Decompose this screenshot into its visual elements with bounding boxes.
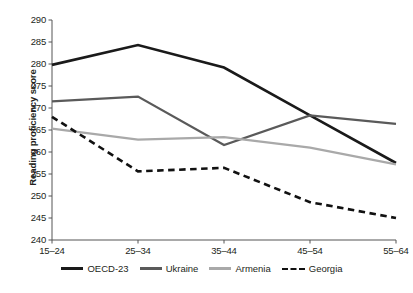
chart-legend: OECD-23UkraineArmeniaGeorgia — [0, 264, 404, 274]
legend-swatch-icon — [209, 267, 231, 270]
legend-swatch-icon — [61, 267, 83, 270]
y-tick-label: 245 — [20, 212, 46, 223]
y-tick-label: 240 — [20, 234, 46, 245]
y-tick-label: 275 — [20, 80, 46, 91]
legend-swatch-icon — [282, 268, 305, 270]
x-tick-label: 25–34 — [114, 245, 162, 256]
y-tick-label: 290 — [20, 14, 46, 25]
legend-item[interactable]: Georgia — [282, 264, 343, 274]
y-tick-label: 260 — [20, 146, 46, 157]
x-tick-label: 15–24 — [28, 245, 76, 256]
legend-item[interactable]: Ukraine — [140, 264, 199, 274]
legend-label: Ukraine — [166, 264, 199, 274]
y-tick-label: 255 — [20, 168, 46, 179]
series-line-georgia — [52, 117, 396, 218]
x-tick-label: 35–44 — [200, 245, 248, 256]
legend-label: Armenia — [235, 264, 270, 274]
y-tick-label: 280 — [20, 58, 46, 69]
legend-item[interactable]: Armenia — [209, 264, 270, 274]
y-tick-label: 285 — [20, 36, 46, 47]
legend-label: Georgia — [309, 264, 343, 274]
y-tick-label: 250 — [20, 190, 46, 201]
y-tick-label: 270 — [20, 102, 46, 113]
x-tick-label: 55–64 — [372, 245, 413, 256]
legend-label: OECD-23 — [87, 264, 128, 274]
x-tick-label: 45–54 — [286, 245, 334, 256]
legend-item[interactable]: OECD-23 — [61, 264, 128, 274]
legend-swatch-icon — [140, 267, 162, 270]
y-tick-label: 265 — [20, 124, 46, 135]
